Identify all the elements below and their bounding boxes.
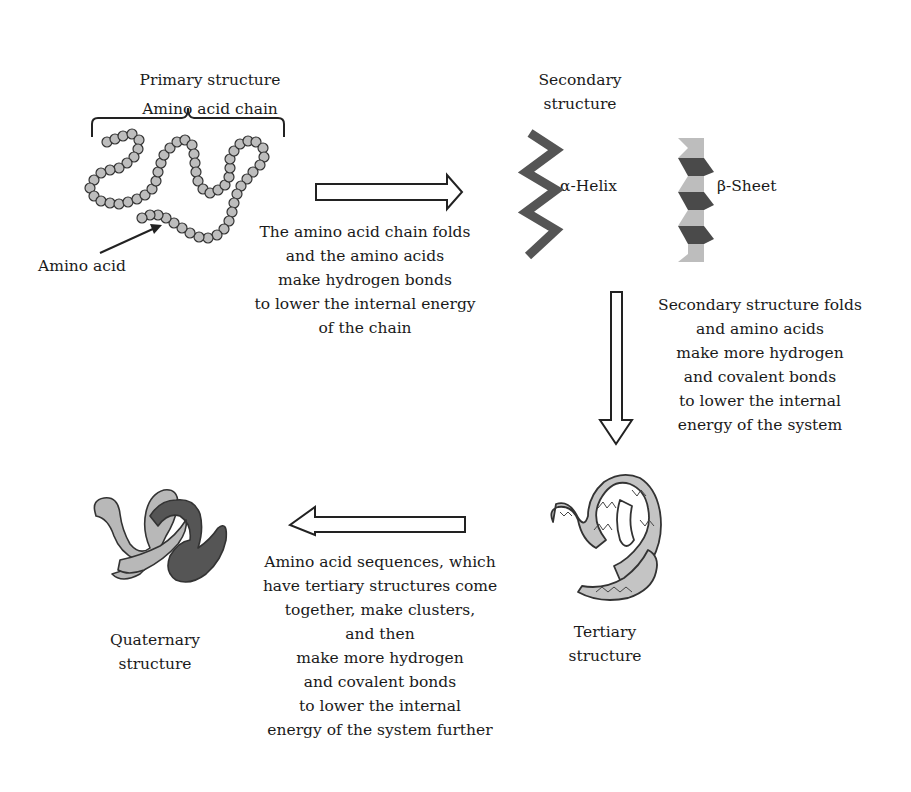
alpha-helix-icon [526,133,556,256]
arrow-left-icon [290,507,465,535]
diagram-graphics [0,0,911,792]
quaternary-structure-icon [94,490,226,582]
amino-acid-pointer-icon [100,224,162,253]
amino-acid-chain-icon [85,129,269,243]
beta-sheet-icon [678,138,714,262]
arrow-down-icon [600,292,632,444]
arrow-right-icon [316,175,462,209]
